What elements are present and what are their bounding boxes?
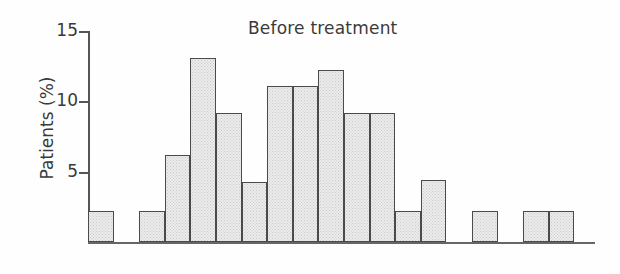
histogram-bar bbox=[267, 86, 293, 242]
histogram-bar bbox=[370, 113, 396, 242]
histogram-bar bbox=[88, 211, 114, 242]
histogram-bar bbox=[165, 155, 191, 242]
histogram-bar bbox=[190, 58, 216, 242]
histogram-bar bbox=[549, 211, 575, 242]
histogram-bar bbox=[395, 211, 421, 242]
plot-area bbox=[88, 31, 595, 243]
histogram-bar bbox=[318, 70, 344, 242]
histogram-bar bbox=[344, 113, 370, 242]
y-tick-label-group: 15 10 5 bbox=[36, 31, 78, 243]
histogram-bar bbox=[421, 180, 447, 242]
histogram-figure: Before treatment Patients (%) 15 10 5 bbox=[0, 0, 620, 274]
histogram-bar bbox=[523, 211, 549, 242]
y-tick-label-10: 10 bbox=[56, 90, 78, 110]
bar-group bbox=[88, 31, 595, 243]
histogram-bar bbox=[139, 211, 165, 242]
histogram-bar bbox=[293, 86, 319, 242]
histogram-bar bbox=[216, 113, 242, 242]
histogram-bar bbox=[472, 211, 498, 242]
y-tick-label-15: 15 bbox=[56, 20, 78, 40]
histogram-bar bbox=[242, 182, 268, 242]
y-tick-label-5: 5 bbox=[67, 161, 78, 181]
